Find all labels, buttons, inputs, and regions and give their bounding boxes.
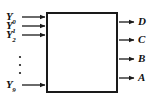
output-label-b: B bbox=[138, 53, 145, 64]
output-label-d: D bbox=[138, 16, 146, 27]
input-label-y2: Y2 bbox=[6, 29, 16, 43]
input-label-y9: Y9 bbox=[6, 79, 16, 93]
output-label-a: A bbox=[138, 72, 145, 83]
input-label-y9-sub: 9 bbox=[12, 86, 16, 94]
logic-block-body bbox=[47, 13, 117, 92]
input-ellipsis-icon bbox=[19, 56, 21, 74]
block-diagram-figure: Y0 Y1 Y2 Y9 D C B A bbox=[0, 0, 162, 105]
input-lines bbox=[22, 17, 45, 85]
output-lines bbox=[119, 22, 134, 78]
input-label-y2-sub: 2 bbox=[12, 36, 16, 44]
output-label-c: C bbox=[138, 34, 145, 45]
